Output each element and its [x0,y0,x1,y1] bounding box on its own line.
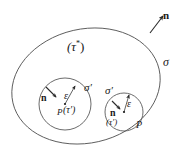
left-sphere-radius-label: ε [64,91,68,101]
outer-surface-label: σ [163,56,169,68]
left-sphere-normal-arrow [46,87,56,97]
left-sphere-point-label: P [57,108,63,117]
left-sphere-surface-label: σ′ [84,82,92,93]
outer-normal-arrow [150,16,163,33]
figure-canvas: n σ (τ*) n ε σ′ (τ′) P σ′ n ε (τ′) P [0,0,181,165]
left-sphere-volume-label: (τ′) [63,105,75,115]
left-sphere-normal-label: n [41,93,47,103]
outer-volume-label-paren: ) [80,39,84,54]
right-sphere-point-label: P [136,120,142,130]
right-sphere-surface-label: σ′ [105,85,113,96]
outer-volume-label-tau: (τ [67,39,76,54]
outer-volume-label: (τ*) [67,40,84,53]
right-sphere-center-point [123,111,125,113]
right-sphere-radius-label: ε [127,99,131,109]
right-sphere-volume-label: (τ′) [106,118,117,127]
outer-normal-label: n [163,10,169,21]
